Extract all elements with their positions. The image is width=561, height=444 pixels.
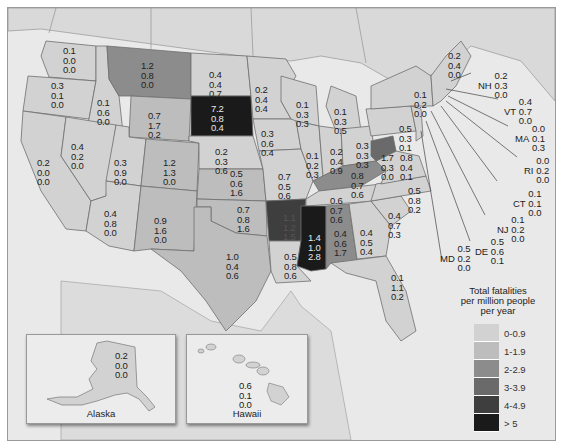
- legend-item: 1-1.9: [474, 342, 556, 360]
- legend-swatch: [474, 360, 499, 378]
- state-label-nv: 0.40.20.0: [71, 142, 84, 171]
- legend-item: 3-3.9: [474, 378, 556, 396]
- state-label-me: 0.20.40.0: [448, 51, 461, 80]
- state-label-ia: 0.30.60.4: [261, 129, 274, 158]
- state-label-ny: 0.10.20.0: [414, 90, 427, 119]
- state-label-ca: 0.20.00.0: [37, 158, 50, 187]
- legend-swatch: [474, 414, 499, 432]
- alaska-label: Alaska: [27, 408, 175, 419]
- alaska-inset: 0.20.00.0 Alaska: [26, 334, 176, 424]
- state-label-ne: 0.20.30.6: [215, 147, 228, 176]
- state-label-ri: RI 0.00.20.0: [524, 156, 549, 185]
- state-label-ok: 0.70.81.6: [237, 205, 250, 234]
- hawaii-inset: 0.60.10.0 Hawaii: [186, 334, 308, 424]
- state-label-mn: 0.20.40.4: [255, 85, 268, 114]
- state-label-nc: 0.50.80.2: [408, 186, 421, 215]
- state-label-mo: 0.70.50.6: [278, 172, 291, 201]
- legend-item: 2-2.9: [474, 360, 556, 378]
- state-label-mt: 1.20.80.0: [141, 61, 154, 90]
- state-label-nd: 0.40.40.7: [209, 70, 222, 99]
- state-label-or: 0.30.10.0: [51, 81, 64, 110]
- legend-swatch: [474, 396, 499, 414]
- state-label-id: 0.10.60.0: [97, 98, 110, 127]
- state-label-wi: 0.10.30.3: [296, 100, 309, 129]
- state-label-ar: 1.11.21.5: [283, 213, 296, 242]
- state-label-ga: 0.40.50.4: [360, 228, 373, 257]
- state-label-sd: 7.20.80.4: [211, 104, 224, 133]
- state-label-la: 0.50.80.6: [284, 252, 297, 281]
- state-label-md: MD 0.50.20.0: [440, 244, 471, 273]
- state-label-ms: 1.41.02.8: [308, 233, 321, 262]
- state-label-sc: 0.40.70.3: [388, 211, 401, 240]
- state-label-nm: 0.91.60.0: [154, 216, 167, 245]
- state-label-az: 0.40.80.0: [104, 209, 117, 238]
- state-label-ak: 0.20.00.0: [115, 351, 128, 380]
- state-label-ky: 0.80.70.6: [351, 171, 364, 200]
- state-label-de: DE 0.50.60.1: [475, 237, 504, 266]
- state-label-tx: 1.00.40.6: [226, 252, 239, 281]
- legend: Total fatalities per million people per …: [438, 286, 556, 432]
- state-label-wy: 0.71.70.2: [148, 111, 161, 140]
- state-label-hi: 0.60.10.0: [239, 381, 252, 410]
- legend-item: 4-4.9: [474, 396, 556, 414]
- state-label-ks: 0.50.61.6: [230, 169, 243, 198]
- state-label-in: 0.20.40.9: [330, 147, 343, 176]
- legend-swatch: [474, 342, 499, 360]
- legend-swatch: [474, 324, 499, 342]
- legend-item: > 5: [474, 414, 556, 432]
- state-label-vt: VT 0.40.70.0: [504, 97, 532, 126]
- state-label-wv: 1.70.30.0: [381, 153, 394, 182]
- state-label-il: 0.10.20.3: [306, 151, 319, 180]
- map-frame: 0.10.00.0 0.30.10.0 0.20.00.0 0.10.60.0 …: [7, 7, 556, 441]
- state-label-ut: 0.30.90.0: [114, 158, 127, 187]
- state-label-wa: 0.10.00.0: [63, 46, 76, 75]
- state-label-co: 1.21.30.0: [163, 158, 176, 187]
- state-label-al: 0.40.61.7: [334, 229, 347, 258]
- state-label-mi: 0.10.30.5: [334, 107, 347, 136]
- state-label-va: 0.80.40.1: [400, 153, 413, 182]
- legend-title: Total fatalities per million people per …: [438, 286, 556, 316]
- hawaii-label: Hawaii: [187, 408, 307, 419]
- state-label-fl: 0.11.10.2: [391, 273, 404, 302]
- state-label-pa: 0.50.30.1: [399, 124, 412, 153]
- state-label-tn: 0.60.70.6: [330, 196, 343, 225]
- state-label-oh: 0.30.30.3: [356, 141, 369, 170]
- state-label-ma: MA 0.00.10.3: [515, 124, 545, 153]
- legend-swatch: [474, 378, 499, 396]
- legend-item: 0-0.9: [474, 324, 556, 342]
- state-label-nh: NH 0.20.30.0: [478, 71, 508, 100]
